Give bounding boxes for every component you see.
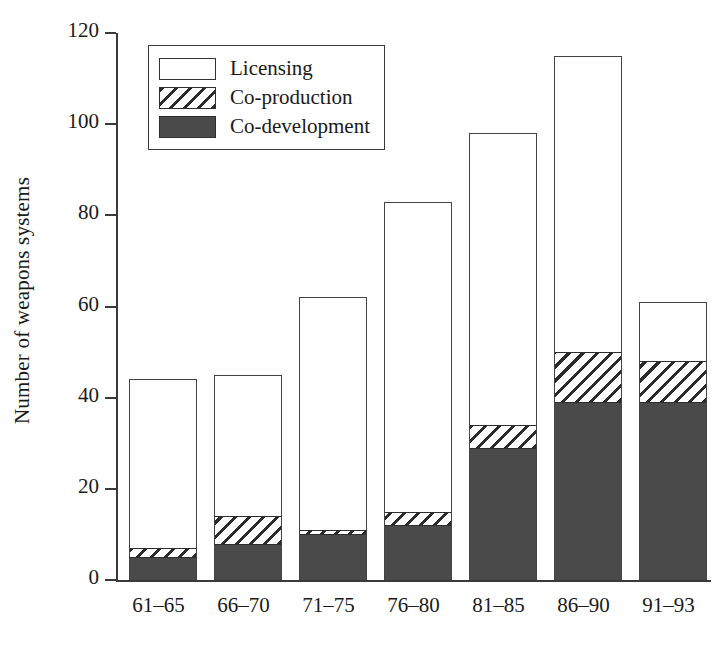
x-axis-tick-label: 86–90	[541, 593, 626, 618]
y-axis-tick-label: 0	[29, 565, 99, 590]
x-axis-tick-label: 71–75	[286, 593, 371, 618]
bar-segment-licensing[interactable]	[384, 202, 452, 512]
bar-segment-licensing[interactable]	[129, 379, 197, 548]
bar-66-70[interactable]	[214, 375, 282, 580]
y-axis-tick	[105, 123, 116, 125]
bar-segment-licensing[interactable]	[299, 297, 367, 529]
x-axis-tick-label: 66–70	[201, 593, 286, 618]
y-axis-tick-label: 120	[29, 18, 99, 43]
y-axis-tick	[105, 32, 116, 34]
bar-segment-co-development[interactable]	[639, 402, 707, 580]
bar-segment-co-development[interactable]	[554, 402, 622, 580]
legend-label: Co-development	[230, 116, 370, 137]
x-axis-tick-label: 76–80	[371, 593, 456, 618]
y-axis-tick-label: 20	[29, 474, 99, 499]
bar-segment-co-production[interactable]	[214, 516, 282, 543]
bar-segment-licensing[interactable]	[214, 375, 282, 516]
x-axis-tick-label: 61–65	[116, 593, 201, 618]
bar-segment-co-production[interactable]	[384, 512, 452, 526]
y-axis-tick-label: 40	[29, 383, 99, 408]
chart-legend: Licensing Co-production Co-development	[148, 45, 385, 150]
legend-item-co-production: Co-production	[159, 83, 370, 112]
bar-segment-licensing[interactable]	[554, 56, 622, 352]
bar-segment-co-development[interactable]	[214, 544, 282, 580]
y-axis-tick	[105, 214, 116, 216]
y-axis-tick	[105, 488, 116, 490]
x-axis-line	[116, 580, 711, 582]
hatched-rect-icon	[159, 87, 216, 109]
bar-61-65[interactable]	[129, 379, 197, 580]
legend-item-co-development: Co-development	[159, 112, 370, 141]
bar-segment-co-development[interactable]	[299, 534, 367, 580]
bar-segment-co-development[interactable]	[384, 525, 452, 580]
bar-91-93[interactable]	[639, 302, 707, 580]
bar-segment-co-production[interactable]	[639, 361, 707, 402]
bar-81-85[interactable]	[469, 133, 537, 580]
legend-label: Licensing	[230, 58, 313, 79]
legend-item-licensing: Licensing	[159, 54, 370, 83]
y-axis-tick-label: 80	[29, 200, 99, 225]
filled-rect-icon	[159, 116, 216, 138]
x-axis-tick-label: 91–93	[626, 593, 711, 618]
open-rect-icon	[159, 58, 216, 80]
chart-figure: Number of weapons systems 02040608010012…	[0, 0, 727, 648]
y-axis-tick	[105, 397, 116, 399]
bar-segment-licensing[interactable]	[469, 133, 537, 425]
bar-76-80[interactable]	[384, 202, 452, 580]
bar-71-75[interactable]	[299, 297, 367, 580]
bar-86-90[interactable]	[554, 56, 622, 580]
bar-segment-co-production[interactable]	[554, 352, 622, 402]
y-axis-tick-label: 60	[29, 291, 99, 316]
bar-segment-licensing[interactable]	[639, 302, 707, 361]
bar-segment-co-development[interactable]	[129, 557, 197, 580]
y-axis-tick	[105, 306, 116, 308]
y-axis-tick-label: 100	[29, 109, 99, 134]
bar-segment-co-production[interactable]	[129, 548, 197, 557]
bar-segment-co-development[interactable]	[469, 448, 537, 580]
bar-segment-co-production[interactable]	[469, 425, 537, 448]
x-axis-tick-label: 81–85	[456, 593, 541, 618]
legend-label: Co-production	[230, 87, 352, 108]
y-axis-tick	[105, 579, 116, 581]
